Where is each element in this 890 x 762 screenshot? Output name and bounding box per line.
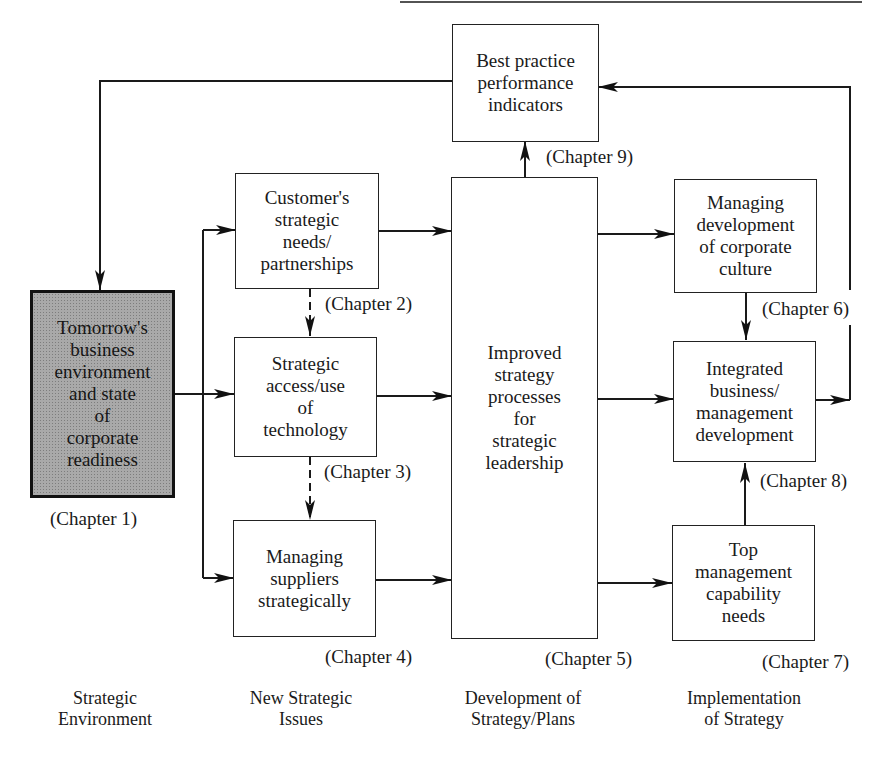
strategy-framework-diagram: Best practice performance indicators (Ch… xyxy=(0,0,890,762)
node-tomorrow: Tomorrow's business environment and stat… xyxy=(30,290,175,498)
chapter-1-label: (Chapter 1) xyxy=(50,508,137,530)
node-improved: Improved strategy processes for strategi… xyxy=(451,177,598,639)
node-culture-text: Managing development of corporate cultur… xyxy=(696,192,794,280)
chapter-6-label: (Chapter 6) xyxy=(762,298,849,320)
chapter-5-label: (Chapter 5) xyxy=(545,648,632,670)
column-label-implementation-of-strategy: Implementation of Strategy xyxy=(687,688,801,730)
chapter-8-label: (Chapter 8) xyxy=(760,470,847,492)
node-integrated: Integrated business/ management developm… xyxy=(673,341,816,462)
node-suppliers: Managing suppliers strategically xyxy=(233,520,376,637)
node-tomorrow-text: Tomorrow's business environment and stat… xyxy=(54,317,150,471)
node-customer-text: Customer's strategic needs/ partnerships xyxy=(261,187,354,275)
node-top-management-text: Top management capability needs xyxy=(695,539,792,627)
column-label-development-of-strategy: Development of Strategy/Plans xyxy=(465,688,581,730)
column-label-strategic-environment: Strategic Environment xyxy=(58,688,152,730)
chapter-7-label: (Chapter 7) xyxy=(762,651,849,673)
node-top-management: Top management capability needs xyxy=(672,525,815,641)
node-integrated-text: Integrated business/ management developm… xyxy=(695,358,793,446)
node-improved-text: Improved strategy processes for strategi… xyxy=(485,342,563,474)
node-technology-text: Strategic access/use of technology xyxy=(263,353,347,441)
node-technology: Strategic access/use of technology xyxy=(234,337,377,457)
chapter-4-label: (Chapter 4) xyxy=(325,646,412,668)
column-label-new-strategic-issues: New Strategic Issues xyxy=(250,688,352,730)
node-best-practice: Best practice performance indicators xyxy=(452,24,599,142)
node-culture: Managing development of corporate cultur… xyxy=(674,179,817,293)
node-best-practice-text: Best practice performance indicators xyxy=(476,50,575,116)
node-customer: Customer's strategic needs/ partnerships xyxy=(235,173,379,289)
chapter-3-label: (Chapter 3) xyxy=(324,461,411,483)
node-suppliers-text: Managing suppliers strategically xyxy=(258,546,351,612)
chapter-2-label: (Chapter 2) xyxy=(325,293,412,315)
chapter-9-label: (Chapter 9) xyxy=(546,146,633,168)
